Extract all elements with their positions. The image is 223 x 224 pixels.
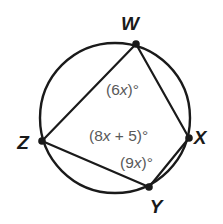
angle-labels: (6x)° (8x + 5)° (9x)° bbox=[89, 81, 153, 171]
vertex-dot-x bbox=[185, 134, 193, 142]
angle-label-z: (8x + 5)° bbox=[89, 127, 148, 144]
angle-z-prefix: (8 bbox=[89, 127, 103, 144]
vertex-dot-y bbox=[145, 183, 153, 191]
angle-w-suffix: )° bbox=[128, 81, 139, 98]
geometry-figure: W X Y Z (6x)° (8x + 5)° (9x)° bbox=[0, 0, 223, 224]
vertex-label-y: Y bbox=[150, 196, 165, 217]
vertex-label-z: Z bbox=[16, 132, 30, 153]
vertex-label-w: W bbox=[121, 13, 141, 34]
chord-w-x bbox=[136, 44, 189, 138]
angle-y-prefix: (9 bbox=[120, 154, 134, 171]
angle-label-y: (9x)° bbox=[120, 154, 153, 171]
angle-z-suffix: + 5)° bbox=[111, 127, 149, 144]
angle-y-suffix: )° bbox=[142, 154, 153, 171]
chord-y-x bbox=[149, 138, 189, 187]
vertex-label-x: X bbox=[193, 127, 208, 148]
angle-w-prefix: (6 bbox=[106, 81, 120, 98]
angle-label-w: (6x)° bbox=[106, 81, 139, 98]
geometry-diagram-canvas: W X Y Z (6x)° (8x + 5)° (9x)° bbox=[0, 0, 223, 224]
vertex-dot-w bbox=[132, 40, 140, 48]
vertex-dot-z bbox=[38, 137, 46, 145]
